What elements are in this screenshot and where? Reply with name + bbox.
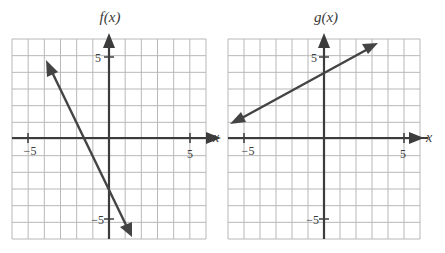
g-tick-label-x-pos: 5 — [400, 147, 406, 161]
g-tick-label-y-pos: 5 — [311, 51, 317, 65]
g-tick-label-y-neg: −5 — [306, 213, 319, 227]
g-plot: g(x) x −5 5 5 −5 — [0, 0, 445, 253]
g-title: g(x) — [314, 9, 338, 26]
g-x-axis-arrow-icon — [409, 132, 424, 144]
g-y-axis-arrow-icon — [318, 33, 330, 48]
g-line-arrow-right-icon — [362, 43, 378, 54]
g-tick-label-x-neg: −5 — [242, 144, 255, 158]
g-x-axis-label: x — [425, 130, 433, 145]
g-line — [240, 49, 368, 119]
